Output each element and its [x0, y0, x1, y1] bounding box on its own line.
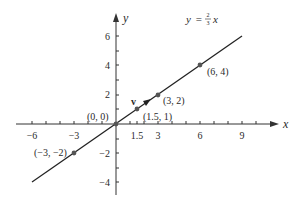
x-tick-label: −6 [27, 130, 38, 141]
x-tick-label: 9 [240, 130, 245, 141]
line-chart: −6 −3 1.5 3 6 9 6 4 2 −2 −4 x y y = 2 3 … [0, 0, 297, 207]
x-tick-label: 3 [156, 130, 161, 141]
data-point [72, 151, 77, 156]
x-axis-arrow-icon [270, 121, 279, 127]
vector-arrow-icon [143, 99, 151, 106]
y-axis-arrow-icon [113, 13, 119, 22]
y-tick-label: 4 [105, 60, 110, 71]
x-axis-label: x [282, 117, 289, 131]
equation-label: y = [185, 13, 202, 25]
y-tick-label: −2 [99, 148, 110, 159]
point-label: (−3, −2) [34, 147, 67, 159]
y-axis-label: y [122, 11, 129, 25]
data-point [114, 122, 119, 127]
data-point [156, 93, 161, 98]
equation-numerator: 2 [207, 12, 210, 18]
equation-denominator: 3 [207, 20, 210, 26]
point-label: (0, 0) [87, 111, 109, 123]
x-tick-label: −3 [69, 130, 80, 141]
x-tick-label: 6 [198, 130, 203, 141]
point-label: (6, 4) [207, 66, 229, 78]
y-tick-label: 6 [105, 31, 110, 42]
equation-variable: x [212, 13, 218, 25]
point-label: (1.5, 1) [143, 111, 172, 123]
y-tick-labels: 6 4 2 −2 −4 [99, 31, 110, 188]
data-point [135, 107, 140, 112]
y-tick-label: 2 [105, 89, 110, 100]
vector-label: v [131, 96, 136, 107]
y-tick-label: −4 [99, 177, 110, 188]
data-point [198, 63, 203, 68]
x-tick-label: 1.5 [131, 130, 144, 141]
x-tick-labels: −6 −3 1.5 3 6 9 [27, 130, 245, 141]
point-label: (3, 2) [163, 95, 185, 107]
